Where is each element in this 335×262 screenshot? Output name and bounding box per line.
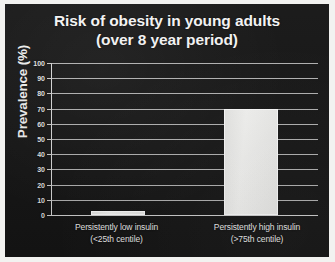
gridline xyxy=(51,78,318,79)
y-tick-mark xyxy=(47,185,51,186)
y-tick-label-10: 0 xyxy=(41,212,45,219)
y-tick-mark xyxy=(47,215,51,216)
chart-title: Risk of obesity in young adults (over 8 … xyxy=(5,11,329,49)
x-tick-label-1: Persistently high insulin (>75th centile… xyxy=(187,222,327,245)
x-tick-label-1-main: Persistently high insulin xyxy=(214,222,300,232)
y-tick-label-7: 30 xyxy=(37,166,45,173)
y-tick-label-1: 90 xyxy=(37,75,45,82)
gridline xyxy=(51,215,318,216)
y-tick-label-3: 70 xyxy=(37,105,45,112)
plot-area: 1009080706050403020100 xyxy=(51,63,318,216)
chart-title-line2: (over 8 year period) xyxy=(5,30,329,49)
y-tick-label-6: 40 xyxy=(37,151,45,158)
y-tick-mark xyxy=(47,109,51,110)
y-tick-mark xyxy=(47,200,51,201)
y-tick-mark xyxy=(47,63,51,64)
gridline xyxy=(51,63,318,64)
chart-title-line1: Risk of obesity in young adults xyxy=(54,12,280,29)
x-tick-label-1-sub: (>75th centile) xyxy=(187,234,327,246)
y-tick-label-8: 20 xyxy=(37,181,45,188)
x-tick-label-0-sub: (<25th centile) xyxy=(49,234,184,246)
y-tick-mark xyxy=(47,93,51,94)
y-tick-mark xyxy=(47,154,51,155)
bar-1 xyxy=(224,109,278,215)
chart-panel: Risk of obesity in young adults (over 8 … xyxy=(5,4,329,257)
x-tick-label-0-main: Persistently low insulin xyxy=(75,222,158,232)
bar-0 xyxy=(91,211,145,215)
y-tick-label-5: 50 xyxy=(37,136,45,143)
y-tick-mark xyxy=(47,78,51,79)
chart-image: Risk of obesity in young adults (over 8 … xyxy=(0,0,335,262)
y-tick-label-2: 80 xyxy=(37,90,45,97)
y-tick-label-9: 10 xyxy=(37,196,45,203)
y-tick-label-4: 60 xyxy=(37,120,45,127)
y-tick-mark xyxy=(47,124,51,125)
gridline xyxy=(51,93,318,94)
y-axis-title: Prevalence (%) xyxy=(15,17,30,167)
y-tick-mark xyxy=(47,139,51,140)
x-tick-label-0: Persistently low insulin (<25th centile) xyxy=(49,222,184,245)
y-tick-label-0: 100 xyxy=(33,60,45,67)
y-tick-mark xyxy=(47,169,51,170)
